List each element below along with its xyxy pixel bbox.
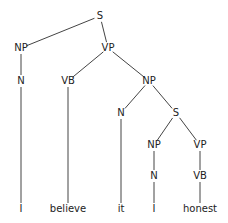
node-label-vp: VP [194,139,207,150]
leaf-word: honest [183,203,217,214]
node-label-np: NP [147,139,161,150]
node-label-n: N [117,107,124,118]
tree-edge-np2-n2 [125,86,145,109]
node-label-vb: VB [193,170,207,181]
tree-edge-s2-np3 [157,118,172,140]
leaf-word: it [118,203,125,214]
leaf-word: believe [50,203,86,214]
syntax-tree-diagram: SNPVPNVBNPNSNPVPNVBIbelieveitIhonest [0,0,228,223]
node-label-s: S [173,107,179,118]
tree-edge-s1-np1 [27,18,95,45]
node-label-vb: VB [61,75,75,86]
node-label-np: NP [142,75,156,86]
node-label-n: N [17,75,24,86]
tree-edge-vp1-np2 [113,52,145,77]
leaf-word: I [20,203,23,214]
tree-edge-np2-s2 [153,86,172,109]
tree-edge-s1-vp1 [101,22,106,42]
node-label-n: N [150,170,157,181]
tree-edge-vp1-vb1 [73,52,104,77]
tree-nodes: SNPVPNVBNPNSNPVPNVBIbelieveitIhonest [14,10,217,214]
tree-edge-s2-vp2 [180,118,197,140]
node-label-np: NP [14,42,28,53]
node-label-vp: VP [102,42,115,53]
node-label-s: S [97,10,103,21]
leaf-word: I [153,203,156,214]
